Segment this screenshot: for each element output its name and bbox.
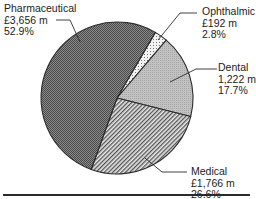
label-dental-percent: 17.7% <box>218 85 256 97</box>
label-dental: Dental 1,222 m 17.7% <box>218 62 256 97</box>
pie-slices <box>41 22 193 174</box>
label-ophthalmic: Ophthalmic £192 m 2.8% <box>202 6 255 41</box>
label-ophthalmic-percent: 2.8% <box>202 29 255 41</box>
label-pharmaceutical-name: Pharmaceutical <box>4 3 76 15</box>
label-medical-name: Medical <box>191 166 235 178</box>
label-pharmaceutical-percent: 52.9% <box>4 26 76 38</box>
label-dental-name: Dental <box>218 62 256 74</box>
label-ophthalmic-name: Ophthalmic <box>202 6 255 18</box>
label-pharmaceutical: Pharmaceutical £3,656 m 52.9% <box>4 3 76 38</box>
bottom-divider <box>3 194 250 196</box>
leader-ophthalmic <box>158 13 197 40</box>
